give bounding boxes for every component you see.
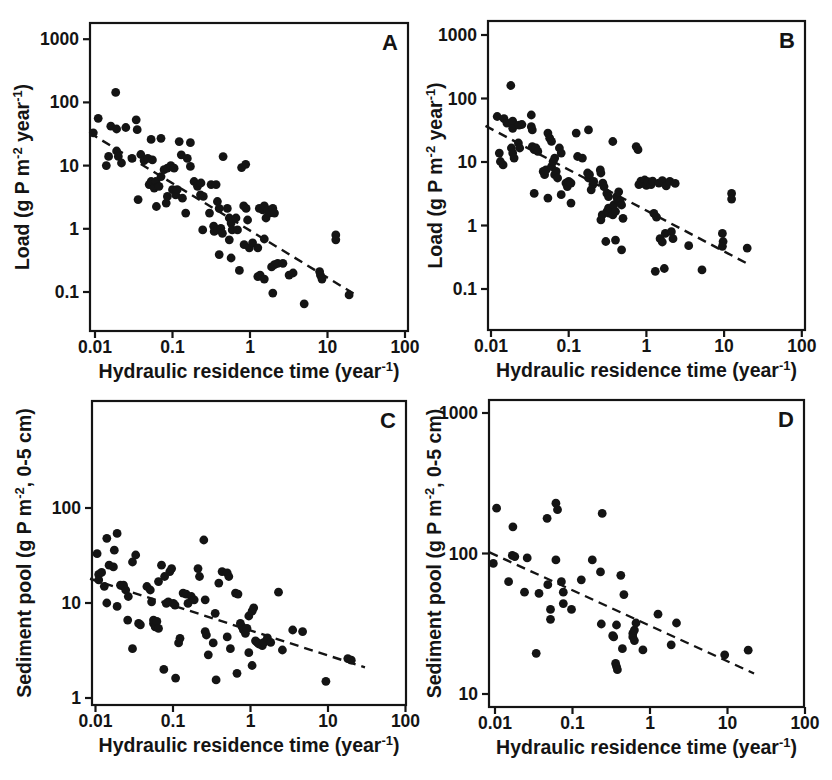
panel-b: 0.010.11101000.11101001000BHydraulic res… [423,21,817,381]
data-point [744,646,753,655]
panel-letter: D [778,407,794,432]
data-point [186,162,195,171]
data-point [212,180,221,189]
data-point [523,554,532,563]
x-tick-label: 0.1 [161,711,186,731]
data-point [186,138,195,147]
y-axis-label: Load (g P m-2 year-1) [423,82,446,268]
figure-canvas: 0.010.11101000.11101001000AHydraulic res… [0,0,832,780]
data-point [248,661,257,670]
data-point [588,556,597,565]
panel-letter: C [380,408,396,433]
data-point [170,164,179,173]
data-point [212,676,221,685]
data-point [616,571,625,580]
data-point [274,588,283,597]
data-point [147,135,156,144]
y-axis-label: Sediment pool (g P m-2, 0-5 cm) [12,408,35,698]
x-tick-label: 0.1 [560,713,585,733]
data-point [578,154,587,163]
data-point [152,202,161,211]
data-point [102,599,111,608]
data-point [110,546,119,555]
data-point [499,161,508,170]
data-point [584,125,593,134]
data-point [322,677,331,686]
x-tick-label: 1 [645,713,655,733]
x-tick-label: 10 [318,337,338,357]
plot-frame [90,23,408,331]
data-point [567,199,576,208]
data-point [504,577,513,586]
data-point [147,597,156,606]
x-tick-label: 10 [318,711,338,731]
y-axis-label: Load (g P m-2 year-1) [10,84,33,270]
data-point [171,601,180,610]
data-point [266,638,275,647]
data-point [658,238,667,247]
x-tick-label: 0.01 [478,713,512,733]
data-point [243,216,252,225]
data-point [552,556,561,565]
data-point [345,291,354,300]
data-point [111,88,120,97]
data-point [226,644,235,653]
data-point [509,522,518,531]
data-point [609,633,618,642]
data-point [572,129,581,138]
data-point [260,275,269,284]
data-point [660,264,669,273]
x-tick-label: 1 [246,711,256,731]
data-point [278,646,287,655]
data-point [669,234,678,243]
data-point [157,561,166,570]
data-point [253,243,262,252]
data-point [601,237,610,246]
x-tick-label: 0.1 [160,337,185,357]
x-tick-label: 100 [790,713,819,733]
data-point [557,190,566,199]
data-point [176,634,185,643]
data-point [613,665,622,674]
x-tick-label: 0.01 [78,711,112,731]
data-point [131,551,140,560]
data-point [260,235,269,244]
data-point [589,177,598,186]
data-point [598,509,607,518]
panel-c: 0.010.1110100110100CHydraulic residence … [12,401,421,756]
data-point [113,529,122,538]
trendline [490,552,755,673]
data-point [175,137,184,146]
data-point [154,624,163,633]
four-panel-scatter-figure: 0.010.11101000.11101001000AHydraulic res… [0,0,832,780]
data-point [243,624,252,633]
y-tick-label: 10 [459,684,479,704]
data-point [559,588,568,597]
data-point [652,213,661,222]
trendline [90,579,365,668]
x-tick-label: 100 [787,336,816,356]
x-axis-label: Hydraulic residence time (year-1) [99,359,400,382]
panel-a: 0.010.11101000.11101001000AHydraulic res… [10,23,420,382]
data-point [249,603,258,612]
data-point [527,111,536,120]
data-point [289,269,298,278]
data-point [288,626,297,635]
data-point [667,640,676,649]
data-point [112,125,121,134]
data-point [195,572,204,581]
x-tick-label: 0.01 [474,336,508,356]
x-axis-label: Hydraulic residence time (year-1) [99,733,400,756]
data-point [201,595,210,604]
panel-letter: B [779,28,795,53]
data-point [225,235,234,244]
panel-letter: A [382,30,398,55]
data-point [159,665,168,674]
data-point [198,226,207,235]
data-point [279,259,288,268]
y-tick-label: 10 [62,593,82,613]
data-point [654,610,663,619]
data-point [604,192,613,201]
data-point [608,137,617,146]
data-point [173,185,182,194]
